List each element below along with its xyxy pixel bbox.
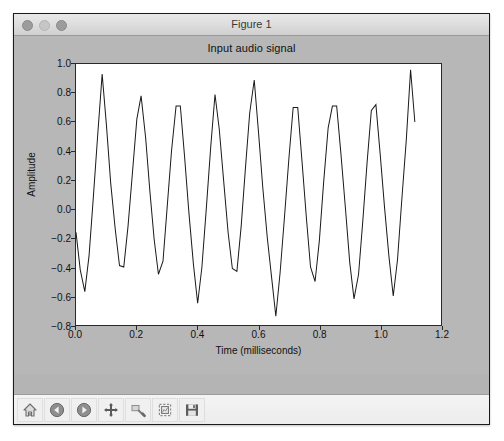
x-axis-label: Time (milliseconds) (75, 345, 442, 356)
configure-subplots-icon (157, 402, 173, 418)
waveform-svg (76, 64, 441, 325)
figure-canvas: Input audio signal 1.00.80.60.40.20.0−0.… (14, 36, 489, 374)
zoom-rect-icon (130, 402, 146, 418)
window-title: Figure 1 (14, 14, 489, 35)
x-tick-label: 0.0 (68, 329, 82, 340)
y-tick-label: 0.8 (19, 87, 71, 98)
figure-window: Figure 1 Input audio signal 1.00.80.60.4… (13, 13, 490, 425)
navigation-toolbar (14, 394, 489, 424)
configure-subplots-button[interactable] (152, 398, 178, 422)
y-tick-label: −0.8 (19, 321, 71, 332)
x-tick-labels: 0.00.20.40.60.81.01.2 (75, 329, 442, 343)
plot-axes (75, 63, 442, 326)
forward-button[interactable] (71, 398, 97, 422)
y-tick-label: 0.6 (19, 116, 71, 127)
x-tick-label: 0.8 (313, 329, 327, 340)
back-arrow-icon (49, 402, 65, 418)
back-button[interactable] (44, 398, 70, 422)
save-floppy-icon (184, 402, 200, 418)
home-button[interactable] (17, 398, 43, 422)
forward-arrow-icon (76, 402, 92, 418)
window-titlebar[interactable]: Figure 1 (14, 14, 489, 36)
home-icon (22, 402, 38, 418)
y-tick-label: 1.0 (19, 58, 71, 69)
y-tick-label: −0.4 (19, 262, 71, 273)
y-tick-label: −0.6 (19, 291, 71, 302)
y-tick-label: −0.2 (19, 233, 71, 244)
y-axis-label: Amplitude (26, 130, 37, 220)
audio-waveform-line (76, 70, 415, 317)
pan-move-icon (103, 402, 119, 418)
x-tick-label: 0.6 (252, 329, 266, 340)
pan-button[interactable] (98, 398, 124, 422)
x-tick-label: 0.2 (129, 329, 143, 340)
plot-title: Input audio signal (14, 42, 489, 54)
screenshot-root: Figure 1 Input audio signal 1.00.80.60.4… (0, 0, 504, 441)
zoom-button-tool[interactable] (125, 398, 151, 422)
x-tick-label: 0.4 (190, 329, 204, 340)
x-tick-label: 1.2 (435, 329, 449, 340)
x-tick-label: 1.0 (374, 329, 388, 340)
y-tick-labels: 1.00.80.60.40.20.0−0.2−0.4−0.6−0.8 (14, 63, 71, 326)
save-button[interactable] (179, 398, 205, 422)
